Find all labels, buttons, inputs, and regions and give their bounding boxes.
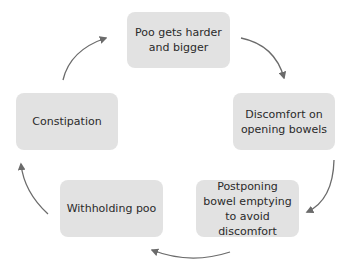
node-postponing: Postponing bowel emptying to avoid disco… — [196, 180, 299, 237]
arrow-n5-to-n1 — [63, 38, 106, 80]
node-withholding: Withholding poo — [60, 180, 163, 237]
node-label: Postponing bowel emptying to avoid disco… — [202, 179, 293, 239]
node-discomfort: Discomfort on opening bowels — [233, 93, 335, 150]
node-label: Poo gets harder and bigger — [133, 25, 224, 55]
arrow-n1-to-n2 — [241, 38, 284, 78]
node-poo-harder: Poo gets harder and bigger — [127, 12, 230, 68]
node-label: Constipation — [32, 114, 101, 129]
node-constipation: Constipation — [16, 93, 118, 150]
arrow-n3-to-n4 — [152, 250, 230, 258]
arrow-n2-to-n3 — [307, 160, 334, 212]
node-label: Withholding poo — [67, 201, 157, 216]
arrow-n4-to-n5 — [21, 164, 48, 214]
node-label: Discomfort on opening bowels — [239, 107, 329, 137]
